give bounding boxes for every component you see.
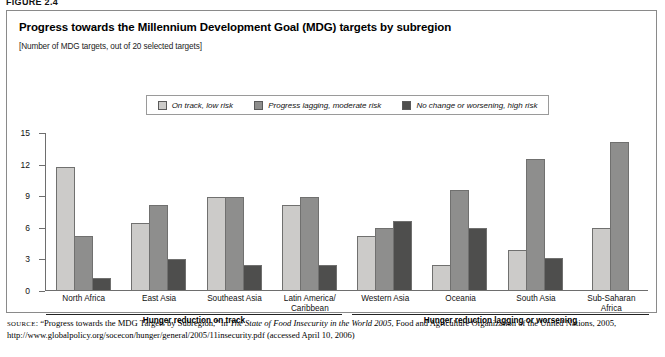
x-axis-label: North Africa [46,294,121,314]
chart-subtitle: [Number of MDG targets, out of 20 select… [19,42,202,51]
x-axis-label: South Asia [498,294,573,314]
bar-group [121,133,196,291]
bar [56,167,75,291]
chart-plot-area: 03691215 [45,133,648,291]
bar-group [197,133,272,291]
bar [526,159,545,291]
bar [375,228,394,291]
y-tick-mark: 12 [39,165,45,166]
figure-label: FIGURE 2.4 [6,0,58,7]
bracket-line-lagging [352,314,649,315]
bar-group [573,133,648,291]
legend-label: Progress lagging, moderate risk [268,101,381,110]
x-axis-label: Oceania [423,294,498,314]
source-italic-title: The State of Food Insecurity in the Worl… [230,318,392,328]
bracket-line-on-track [46,314,342,315]
chart-legend: On track, low riskProgress lagging, mode… [146,95,549,115]
bar [243,265,262,291]
bar [450,190,469,291]
legend-item: No change or worsening, high risk [402,101,537,110]
source-note: SOURCE: “Progress towards the MDG Target… [7,318,658,341]
bar [393,221,412,291]
y-tick-label: 15 [21,128,30,138]
bar [357,236,376,291]
y-tick-mark: 15 [39,133,45,134]
x-axis-label: East Asia [121,294,196,314]
bar [468,228,487,291]
bar [318,265,337,291]
figure-panel: Progress towards the Millennium Developm… [6,10,657,313]
bar [149,205,168,291]
bar [300,197,319,291]
legend-swatch-icon [402,101,411,110]
y-tick-label: 9 [25,191,30,201]
source-prefix: SOURCE [7,320,36,327]
bar-group [272,133,347,291]
bar [544,258,563,291]
bar [207,197,226,291]
bar [225,197,244,291]
y-tick-mark: 6 [39,228,45,229]
source-part1: : “Progress towards the MDG Targets by S… [36,318,230,328]
bar [167,259,186,291]
bar-group [422,133,497,291]
x-axis-label: Sub-SaharanAfrica [574,294,649,314]
bar [592,228,611,291]
legend-swatch-icon [158,101,167,110]
legend-item: On track, low risk [158,101,233,110]
bar [131,223,150,291]
legend-item: Progress lagging, moderate risk [254,101,381,110]
bar [92,278,111,291]
bar [74,236,93,291]
y-tick-label: 6 [25,223,30,233]
y-tick-mark: 3 [39,259,45,260]
bar-group [347,133,422,291]
bar-group [498,133,573,291]
legend-label: On track, low risk [172,101,233,110]
page-title: Progress towards the Millennium Developm… [19,21,451,33]
x-axis-label: Latin America/Caribbean [272,294,347,314]
y-tick-label: 12 [21,160,30,170]
x-axis-label: Southeast Asia [197,294,272,314]
bar [282,205,301,291]
bar [610,142,629,291]
x-axis-label: Western Asia [348,294,423,314]
x-axis-category-labels: North AfricaEast AsiaSoutheast AsiaLatin… [46,294,649,314]
legend-label: No change or worsening, high risk [416,101,537,110]
bar-groups [46,133,648,291]
legend-swatch-icon [254,101,263,110]
bar [432,265,451,291]
y-tick-mark: 0 [39,291,45,292]
y-tick-mark: 9 [39,196,45,197]
y-tick-label: 3 [25,254,30,264]
bar [508,250,527,291]
bar-group [46,133,121,291]
y-tick-label: 0 [25,286,30,296]
